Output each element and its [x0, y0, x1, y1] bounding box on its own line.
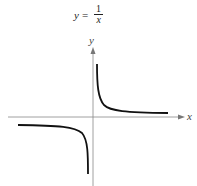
curve-negative-branch	[18, 125, 88, 174]
x-axis-arrow-icon	[178, 115, 185, 120]
y-axis-arrow-icon	[91, 47, 96, 54]
chart-figure: y = 1 x y x	[0, 0, 197, 186]
plot-area	[0, 0, 197, 186]
curve-positive-branch	[97, 64, 168, 113]
